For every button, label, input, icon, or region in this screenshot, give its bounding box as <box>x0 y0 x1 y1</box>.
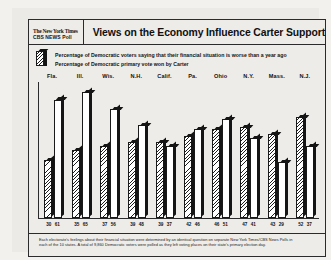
chart-header: The New York Times CBS NEWS Poll Views o… <box>29 20 325 44</box>
state-label-pa: Pa. <box>178 71 206 82</box>
legend-labels: Percentage of Democratic voters saying t… <box>55 49 287 71</box>
bar-financial-worse <box>268 134 277 218</box>
value-financial-worse: 47 <box>242 220 247 229</box>
bar-carter-vote <box>194 129 203 218</box>
bar-group <box>235 82 263 218</box>
bar-side-face <box>173 141 176 217</box>
legend-item-financial: Percentage of Democratic voters saying t… <box>55 52 287 59</box>
bar-group <box>291 82 319 218</box>
masthead: The New York Times CBS NEWS Poll <box>29 20 84 44</box>
bar-carter-vote <box>306 146 315 218</box>
state-label-nj: N.J. <box>291 71 319 82</box>
bar-group <box>151 82 179 218</box>
value-label-pair: 5237 <box>291 220 319 229</box>
state-label-ohio: Ohio <box>207 71 235 82</box>
value-carter-vote: 51 <box>223 220 228 229</box>
value-carter-vote: 41 <box>251 220 256 229</box>
bar-financial-worse <box>44 160 53 218</box>
bar-financial-worse <box>296 117 305 218</box>
value-carter-vote: 46 <box>195 220 200 229</box>
bar-side-face <box>229 114 232 217</box>
value-label-pair: 3948 <box>123 220 151 229</box>
footnote-line-2: each of the 10 states. A total of 9,860 … <box>39 242 315 247</box>
bar-carter-vote <box>166 146 175 218</box>
legend-item-carter: Percentage of Democratic primary vote wo… <box>55 61 287 68</box>
masthead-cbs: CBS NEWS Poll <box>33 34 80 40</box>
bar-side-face <box>257 134 260 217</box>
x-axis-state-labels: Fla. Ill. Wis. N.H. Calif. Pa. Ohio N.Y.… <box>38 71 319 82</box>
state-label-wis: Wis. <box>94 71 122 82</box>
bar-carter-vote <box>54 100 63 219</box>
value-carter-vote: 48 <box>139 220 144 229</box>
value-financial-worse: 52 <box>298 220 303 229</box>
value-label-pair: 4741 <box>235 220 263 229</box>
swatch-side-face <box>44 51 47 66</box>
state-label-ny: N.Y. <box>235 71 263 82</box>
value-carter-vote: 61 <box>55 220 60 229</box>
bar-group <box>67 82 95 218</box>
bar-group <box>179 82 207 218</box>
state-label-mass: Mass. <box>263 71 291 82</box>
bar-financial-worse <box>212 129 221 218</box>
value-label-pair: 3756 <box>95 220 123 229</box>
x-axis-line <box>38 218 319 219</box>
value-financial-worse: 46 <box>214 220 219 229</box>
bar-group <box>207 82 235 218</box>
value-carter-vote: 37 <box>307 220 312 229</box>
bar-financial-worse <box>184 136 193 218</box>
page-title: Views on the Economy Influence Carter Su… <box>84 20 325 44</box>
value-carter-vote: 56 <box>111 220 116 229</box>
value-label-pair: 3937 <box>151 220 179 229</box>
value-label-pair: 4651 <box>207 220 235 229</box>
bar-carter-vote <box>278 162 287 218</box>
bars-container <box>39 82 319 218</box>
footnote: Each electorate's feelings about their f… <box>29 233 325 256</box>
bar-group <box>263 82 291 218</box>
bar-carter-vote <box>110 109 119 218</box>
chart-frame: The New York Times CBS NEWS Poll Views o… <box>28 19 326 257</box>
bar-financial-worse <box>72 150 81 218</box>
bar-carter-vote <box>222 119 231 218</box>
value-carter-vote: 29 <box>279 220 284 229</box>
value-financial-worse: 30 <box>46 220 51 229</box>
value-financial-worse: 42 <box>186 220 191 229</box>
chart-plot-area: Fla. Ill. Wis. N.H. Calif. Pa. Ohio N.Y.… <box>29 71 325 232</box>
value-financial-worse: 35 <box>74 220 79 229</box>
bar-carter-vote <box>250 138 259 218</box>
value-label-pair: 4246 <box>179 220 207 229</box>
bar-financial-worse <box>128 142 137 218</box>
value-label-pair: 3061 <box>39 220 67 229</box>
bar-side-face <box>61 95 64 217</box>
bar-side-face <box>117 104 120 217</box>
bar-group <box>39 82 67 218</box>
value-labels-row: 3061356537563948393742464651474143295237 <box>39 220 319 229</box>
bar-side-face <box>285 157 288 217</box>
bar-side-face <box>89 87 92 217</box>
value-label-pair: 4329 <box>263 220 291 229</box>
bar-side-face <box>201 124 204 217</box>
bar-carter-vote <box>82 92 91 218</box>
value-carter-vote: 65 <box>83 220 88 229</box>
bar-side-face <box>145 120 148 217</box>
state-label-calif: Calif. <box>150 71 178 82</box>
legend-swatch-icon <box>36 49 49 66</box>
bar-group <box>123 82 151 218</box>
bar-side-face <box>313 141 316 217</box>
value-financial-worse: 37 <box>102 220 107 229</box>
legend: Percentage of Democratic voters saying t… <box>29 45 325 71</box>
bar-financial-worse <box>100 146 109 218</box>
value-label-pair: 3565 <box>67 220 95 229</box>
bar-group <box>95 82 123 218</box>
value-carter-vote: 37 <box>167 220 172 229</box>
value-financial-worse: 39 <box>158 220 163 229</box>
state-label-fla: Fla. <box>38 71 66 82</box>
value-financial-worse: 39 <box>130 220 135 229</box>
bar-financial-worse <box>240 127 249 218</box>
screenshot-page: The New York Times CBS NEWS Poll Views o… <box>0 0 331 260</box>
state-label-nh: N.H. <box>122 71 150 82</box>
newspaper-clipping: The New York Times CBS NEWS Poll Views o… <box>12 8 319 252</box>
bar-financial-worse <box>156 142 165 218</box>
state-label-ill: Ill. <box>66 71 94 82</box>
swatch-hatch-face <box>36 51 44 66</box>
value-financial-worse: 43 <box>270 220 275 229</box>
